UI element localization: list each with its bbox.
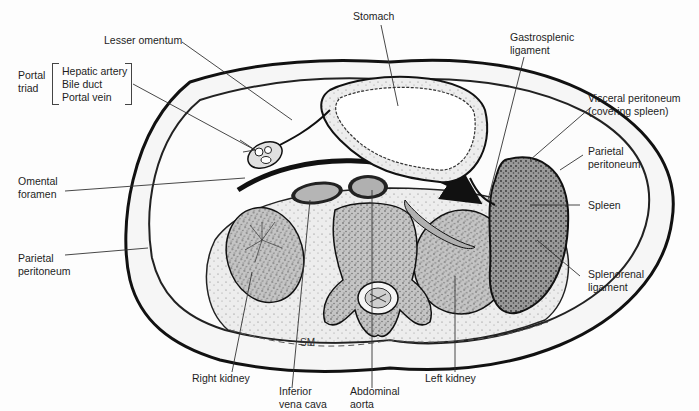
label-omental-foramen: Omental foramen <box>18 175 58 201</box>
label-abdominal-aorta: Abdominal aorta <box>350 385 400 411</box>
label-portal-triad: Portal triad <box>18 69 45 95</box>
label-left-kidney: Left kidney <box>425 372 476 385</box>
label-hepatic-artery: Hepatic artery <box>62 65 127 78</box>
label-spleen: Spleen <box>588 199 621 212</box>
label-inferior-vena-cava: Inferior vena cava <box>279 385 327 411</box>
label-visceral-peritoneum: Visceral peritoneum (covering spleen) <box>588 92 681 118</box>
artist-signature: SM <box>300 337 315 348</box>
label-portal-vein: Portal vein <box>62 91 127 104</box>
portal-triad-list: Hepatic artery Bile duct Portal vein <box>62 65 127 104</box>
label-stomach: Stomach <box>353 10 394 23</box>
label-splenorenal-ligament: Splenorenal ligament <box>588 268 644 294</box>
label-parietal-peritoneum-right: Parietal peritoneum <box>588 145 641 171</box>
label-parietal-peritoneum-left: Parietal peritoneum <box>18 252 71 278</box>
label-lesser-omentum: Lesser omentum <box>104 34 182 47</box>
abdominal-aorta-shape <box>348 175 388 199</box>
anatomy-diagram: SM Stomach Lesser omentum Portal triad <box>0 0 699 411</box>
label-bile-duct: Bile duct <box>62 78 127 91</box>
label-right-kidney: Right kidney <box>192 372 250 385</box>
label-gastrosplenic-ligament: Gastrosplenic ligament <box>510 31 574 57</box>
portal-triad-bracket-left <box>52 63 59 105</box>
